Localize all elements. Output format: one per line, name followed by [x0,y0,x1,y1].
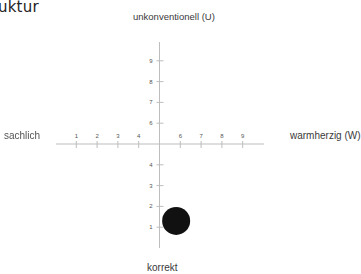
y-tick-label: 3 [149,183,153,189]
y-tick-label: 7 [149,99,153,105]
x-tick-label: 7 [199,133,203,139]
x-tick-label: 6 [179,133,183,139]
y-tick-label: 8 [149,79,153,85]
y-tick-label: 2 [149,203,153,209]
y-tick-label: 6 [149,120,153,126]
x-tick-label: 9 [241,133,245,139]
x-tick-label: 1 [75,133,79,139]
y-tick-label: 1 [149,224,153,230]
x-tick-label: 8 [220,133,224,139]
x-tick-label: 2 [95,133,99,139]
y-tick-label: 4 [149,162,153,168]
data-point-marker [162,207,190,235]
x-tick-label: 4 [137,133,141,139]
x-tick-label: 3 [116,133,120,139]
y-tick-label: 9 [149,58,153,64]
